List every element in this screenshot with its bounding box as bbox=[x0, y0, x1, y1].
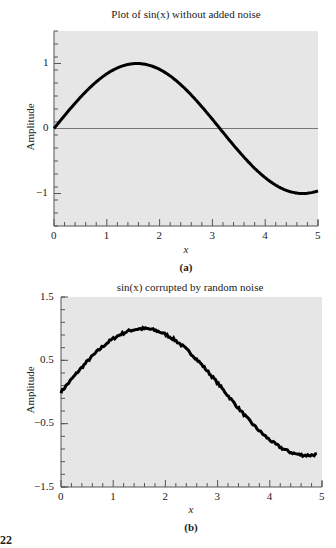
chart-b-ytick-neg0-5: −0.5 bbox=[34, 416, 54, 428]
x-tick-label: 1 bbox=[110, 490, 116, 502]
x-tick-label: 0 bbox=[58, 490, 64, 502]
chart-b-ytick-neg1-5: −1.5 bbox=[34, 480, 54, 492]
figure-number: 22 bbox=[0, 533, 12, 548]
x-tick-label: 0 bbox=[51, 229, 57, 241]
chart-a-xlabel: x bbox=[184, 243, 189, 255]
chart-b-ylabel: Amplitude bbox=[24, 366, 36, 413]
chart-b-panel-label: (b) bbox=[184, 521, 197, 533]
x-tick-label: 2 bbox=[162, 490, 168, 502]
chart-b-title: sin(x) corrupted by random noise bbox=[117, 281, 264, 293]
chart-a-ylabel: Amplitude bbox=[24, 103, 36, 150]
x-tick-label: 5 bbox=[315, 229, 321, 241]
chart-a-ytick-1: 1 bbox=[43, 56, 49, 68]
chart-b-ytick-1-5: 1.5 bbox=[40, 290, 54, 302]
chart-a-panel-label: (a) bbox=[180, 261, 193, 273]
x-tick-label: 1 bbox=[104, 229, 110, 241]
x-tick-label: 3 bbox=[209, 229, 215, 241]
x-tick-label: 4 bbox=[267, 490, 273, 502]
chart-a-ytick-0: 0 bbox=[43, 121, 49, 133]
x-tick-label: 3 bbox=[215, 490, 221, 502]
chart-b-xlabel: x bbox=[189, 503, 194, 515]
x-tick-label: 5 bbox=[319, 490, 325, 502]
plot-area bbox=[61, 297, 322, 487]
chart-a-title: Plot of sin(x) without added noise bbox=[111, 8, 260, 20]
x-tick-label: 2 bbox=[157, 229, 163, 241]
chart-b-ytick-0-5: 0.5 bbox=[40, 353, 54, 365]
chart-a-ytick-neg1: −1 bbox=[36, 186, 48, 198]
x-tick-label: 4 bbox=[262, 229, 268, 241]
